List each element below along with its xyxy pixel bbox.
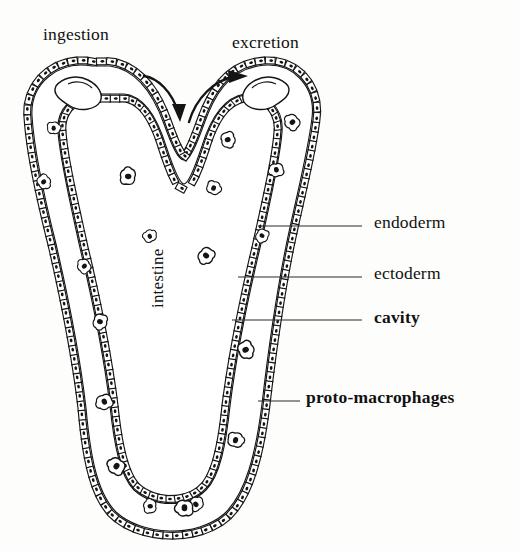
label-cavity: cavity [374,307,420,328]
label-excretion: excretion [232,32,299,53]
label-intestine: intestine [148,249,168,308]
arm-openings [55,77,289,109]
label-ingestion: ingestion [43,24,109,45]
organism-schematic [0,0,520,552]
label-ectoderm: ectoderm [374,263,441,284]
epithelial-layers [24,57,321,539]
label-proto-macrophages: proto-macrophages [306,387,455,408]
label-endoderm: endoderm [374,212,446,233]
diagram-canvas: ingestion excretion endoderm ectoderm ca… [0,0,520,552]
